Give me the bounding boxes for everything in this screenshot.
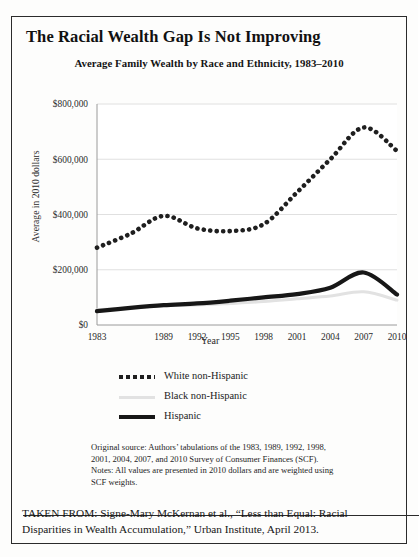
legend-swatch-dotted-icon: [119, 375, 155, 379]
notes-line-1: Original source: Authors’ tabulations of…: [91, 442, 396, 454]
y-axis-title: Average in 2010 dollars: [30, 122, 41, 272]
taken-from-attribution: TAKEN FROM: Signe-Mary McKernan et al., …: [22, 506, 398, 537]
legend-item-hispanic: Hispanic: [12, 405, 408, 425]
y-tick-label: $800,000: [53, 99, 88, 109]
notes-line-2: 2001, 2004, 2007, and 2010 Survey of Con…: [91, 454, 396, 466]
x-axis-title: Year: [12, 335, 408, 346]
legend-label-white: White non-Hispanic: [164, 370, 248, 381]
chart-subtitle: Average Family Wealth by Race and Ethnic…: [12, 57, 406, 69]
legend-item-white: White non-Hispanic: [12, 365, 408, 385]
figure-title: The Racial Wealth Gap Is Not Improving: [26, 27, 321, 47]
notes-line-4: SCF weights.: [91, 477, 396, 489]
line-chart: $0$200,000$400,000$600,000$800,000198319…: [12, 73, 408, 363]
notes-line-3: Notes: All values are presented in 2010 …: [91, 465, 396, 477]
y-tick-label: $600,000: [53, 155, 88, 165]
y-tick-label: $0: [79, 320, 89, 330]
chart-legend: White non-Hispanic Black non-Hispanic Hi…: [12, 365, 408, 425]
chart-area: Average in 2010 dollars Year $0$200,000$…: [12, 73, 408, 363]
source-notes: Original source: Authors’ tabulations of…: [91, 442, 396, 488]
legend-swatch-light-icon: [119, 396, 155, 399]
legend-swatch-solid-icon: [119, 415, 155, 419]
y-tick-label: $200,000: [53, 265, 88, 275]
legend-label-hispanic: Hispanic: [164, 410, 201, 421]
figure-frame: The Racial Wealth Gap Is Not Improving A…: [11, 16, 407, 544]
legend-item-black: Black non-Hispanic: [12, 385, 408, 405]
legend-label-black: Black non-Hispanic: [164, 390, 247, 401]
y-tick-label: $400,000: [53, 210, 88, 220]
